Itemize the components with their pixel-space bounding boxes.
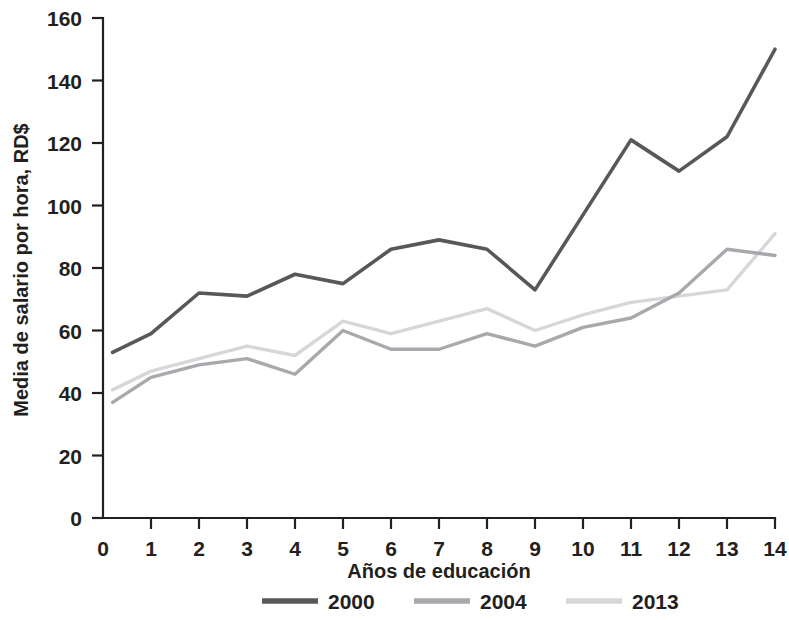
x-tick-label-3: 3 xyxy=(241,537,253,560)
legend-label-2013: 2013 xyxy=(632,590,679,613)
series-line-2000 xyxy=(113,49,775,352)
data-series-group xyxy=(113,49,775,402)
y-tick-label-120: 120 xyxy=(47,132,82,155)
x-axis-ticks xyxy=(151,518,775,529)
y-tick-label-140: 140 xyxy=(47,70,82,93)
line-chart: 020406080100120140160 012345678910111213… xyxy=(0,0,789,620)
x-axis-title: Años de educación xyxy=(347,560,530,582)
x-tick-label-8: 8 xyxy=(481,537,493,560)
x-tick-label-0: 0 xyxy=(97,537,109,560)
legend-label-2004: 2004 xyxy=(480,590,527,613)
y-tick-label-80: 80 xyxy=(59,257,82,280)
x-tick-label-10: 10 xyxy=(571,537,594,560)
y-tick-label-100: 100 xyxy=(47,195,82,218)
x-tick-label-1: 1 xyxy=(145,537,157,560)
x-tick-label-2: 2 xyxy=(193,537,205,560)
y-tick-label-0: 0 xyxy=(70,507,82,530)
x-tick-label-7: 7 xyxy=(433,537,445,560)
y-axis-tick-labels: 020406080100120140160 xyxy=(47,7,82,530)
legend-label-2000: 2000 xyxy=(328,590,375,613)
x-tick-label-14: 14 xyxy=(763,537,787,560)
series-line-2013 xyxy=(113,234,775,390)
y-tick-label-40: 40 xyxy=(59,382,82,405)
x-tick-label-6: 6 xyxy=(385,537,397,560)
y-tick-label-160: 160 xyxy=(47,7,82,30)
chart-legend: 200020042013 xyxy=(262,590,679,613)
x-axis: 01234567891011121314 xyxy=(97,518,787,560)
x-tick-label-12: 12 xyxy=(667,537,690,560)
y-axis-ticks xyxy=(92,18,103,518)
x-axis-tick-labels: 01234567891011121314 xyxy=(97,537,787,560)
y-axis-title: Media de salario por hora, RD$ xyxy=(10,123,32,416)
y-tick-label-20: 20 xyxy=(59,445,82,468)
y-axis: 020406080100120140160 xyxy=(47,7,103,530)
chart-container: 020406080100120140160 012345678910111213… xyxy=(0,0,789,620)
x-tick-label-4: 4 xyxy=(289,537,301,560)
series-line-2004 xyxy=(113,249,775,402)
x-tick-label-13: 13 xyxy=(715,537,738,560)
x-tick-label-9: 9 xyxy=(529,537,541,560)
x-tick-label-11: 11 xyxy=(620,537,643,560)
x-tick-label-5: 5 xyxy=(337,537,349,560)
y-tick-label-60: 60 xyxy=(59,320,82,343)
